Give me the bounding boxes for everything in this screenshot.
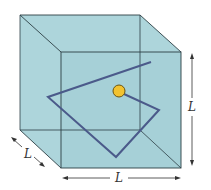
cube-diagram: L L L	[0, 0, 211, 190]
width-label: L	[114, 171, 123, 185]
height-label: L	[187, 100, 196, 114]
particle-ball	[113, 85, 125, 97]
depth-label: L	[23, 147, 32, 161]
